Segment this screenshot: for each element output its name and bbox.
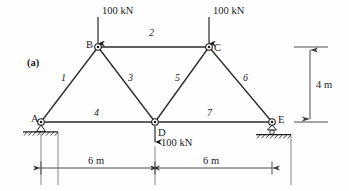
joint-label-A: A (31, 113, 39, 124)
member-label-5: 5 (175, 72, 180, 83)
joint-label-B: B (86, 39, 93, 50)
member-label-6: 6 (243, 72, 248, 83)
support-pinned-A (23, 125, 58, 185)
joint-B (95, 44, 102, 51)
support-roller-E (256, 125, 291, 185)
load-label-C: 100 kN (213, 5, 245, 16)
member-label-2: 2 (149, 27, 154, 38)
load-label-B: 100 kN (102, 5, 134, 16)
member-label-1: 1 (61, 72, 66, 83)
member-1-A-B (41, 47, 98, 122)
joint-label-E: E (278, 114, 284, 125)
truss-diagram-figure: (a) 100 kN 100 kN 100 kN A B C D E 1 2 3… (0, 0, 349, 191)
dimension-label-height: 4 m (316, 79, 332, 90)
part-label: (a) (27, 57, 40, 69)
member-5-D-C (155, 47, 209, 122)
member-label-7: 7 (207, 107, 213, 118)
dimension-label-span-right: 6 m (203, 155, 219, 166)
joint-label-D: D (158, 127, 166, 138)
member-label-3: 3 (127, 72, 133, 83)
joint-C (206, 44, 213, 51)
truss-diagram-canvas: (a) 100 kN 100 kN 100 kN A B C D E 1 2 3… (0, 0, 349, 191)
load-label-D: 100 kN (161, 137, 193, 148)
member-label-4: 4 (94, 107, 99, 118)
truss-members-group (41, 47, 272, 122)
member-3-B-D (98, 47, 155, 122)
horizontal-dimensions-group (41, 133, 272, 185)
member-6-C-E (209, 47, 272, 122)
joint-D (152, 119, 159, 126)
joint-label-C: C (214, 42, 221, 53)
text-labels-group: (a) 100 kN 100 kN 100 kN A B C D E 1 2 3… (27, 5, 332, 166)
dimension-label-span-left: 6 m (88, 155, 104, 166)
